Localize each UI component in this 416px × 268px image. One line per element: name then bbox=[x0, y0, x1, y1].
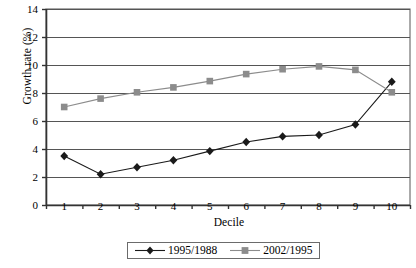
x-tick-label: 1 bbox=[49, 201, 79, 212]
legend-entry-series-1: 1995/1988 bbox=[135, 244, 217, 256]
y-tick-label: 14 bbox=[12, 4, 38, 15]
legend-label-series-1: 1995/1988 bbox=[168, 244, 217, 256]
x-tick-label: 3 bbox=[122, 201, 152, 212]
y-tick-label: 6 bbox=[12, 116, 38, 127]
legend-label-series-2: 2002/1995 bbox=[263, 244, 312, 256]
x-axis-title: Decile bbox=[46, 216, 412, 228]
y-tick-label: 2 bbox=[12, 172, 38, 183]
legend-diamond-marker-icon bbox=[135, 245, 165, 256]
y-tick-label: 10 bbox=[12, 60, 38, 71]
legend-entry-series-2: 2002/1995 bbox=[230, 244, 312, 256]
legend-square-marker-icon bbox=[230, 245, 260, 256]
chart-legend: 1995/1988 2002/1995 bbox=[127, 242, 320, 259]
y-tick-label: 8 bbox=[12, 88, 38, 99]
x-tick-label: 9 bbox=[340, 201, 370, 212]
x-tick-label: 8 bbox=[304, 201, 334, 212]
x-tick-label: 6 bbox=[231, 201, 261, 212]
x-tick-label: 7 bbox=[268, 201, 298, 212]
x-tick-label: 2 bbox=[86, 201, 116, 212]
x-tick-label: 4 bbox=[158, 201, 188, 212]
x-tick-label: 5 bbox=[195, 201, 225, 212]
y-tick-label: 12 bbox=[12, 32, 38, 43]
x-tick-label: 10 bbox=[377, 201, 407, 212]
y-tick-label: 0 bbox=[12, 200, 38, 211]
y-tick-label: 4 bbox=[12, 144, 38, 155]
growth-rate-line-chart: Growth rate (%) Decile 1995/1988 2002/19… bbox=[0, 0, 416, 268]
